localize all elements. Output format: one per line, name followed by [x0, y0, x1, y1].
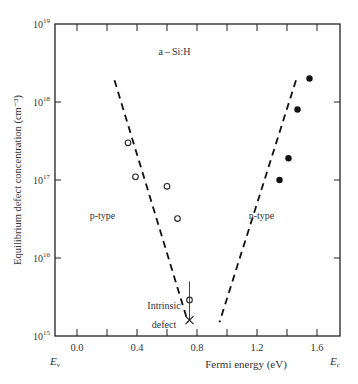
- filled-circle-point: [306, 75, 312, 81]
- dashed-trend-line: [220, 80, 297, 322]
- open-circle-point: [175, 216, 181, 222]
- y-axis-ticks: 10151016101710181019: [33, 17, 340, 342]
- dashed-trend-line: [115, 80, 189, 322]
- y-tick-label: 1015: [33, 329, 51, 342]
- x-tick-label: 0.0: [70, 342, 83, 353]
- annotation-label: p-type: [90, 210, 116, 221]
- x-axis-ticks: 0.00.40.81.21.6: [70, 24, 323, 353]
- annotation-label: defect: [152, 319, 177, 330]
- y-tick-label: 1018: [33, 95, 51, 108]
- annotation-label: n-type: [249, 210, 275, 221]
- annotation-label: a – Si:H: [159, 46, 191, 57]
- chart: 0.00.40.81.21.6 10151016101710181019 a –…: [0, 0, 358, 384]
- open-circle-point: [133, 174, 139, 180]
- filled-circle-point: [276, 177, 282, 183]
- trend-lines: [115, 80, 297, 322]
- x-axis-label: Fermi energy (eV): [205, 358, 287, 371]
- annotation-label: Intrinsic: [147, 300, 181, 311]
- plot-border: [55, 24, 340, 336]
- data-points: [125, 75, 312, 324]
- y-tick-label: 1017: [33, 173, 51, 186]
- open-circle-point: [164, 184, 170, 190]
- edge-label-ev: Ev: [49, 355, 61, 369]
- x-tick-label: 0.8: [190, 342, 203, 353]
- y-axis-label: Equilibrium defect concentration (cm⁻³): [12, 95, 24, 265]
- y-tick-label: 1016: [33, 251, 51, 264]
- plot-frame: [55, 24, 340, 336]
- edge-label-ec: Ec: [329, 355, 341, 369]
- x-tick-label: 1.2: [250, 342, 263, 353]
- x-tick-label: 0.4: [130, 342, 144, 353]
- filled-circle-point: [294, 106, 300, 112]
- annotations: a – Si:Hp-typen-typeIntrinsicdefect: [90, 46, 275, 330]
- filled-circle-point: [285, 155, 291, 161]
- y-tick-label: 1019: [33, 17, 51, 30]
- x-tick-label: 1.6: [310, 342, 323, 353]
- open-circle-point: [125, 140, 131, 146]
